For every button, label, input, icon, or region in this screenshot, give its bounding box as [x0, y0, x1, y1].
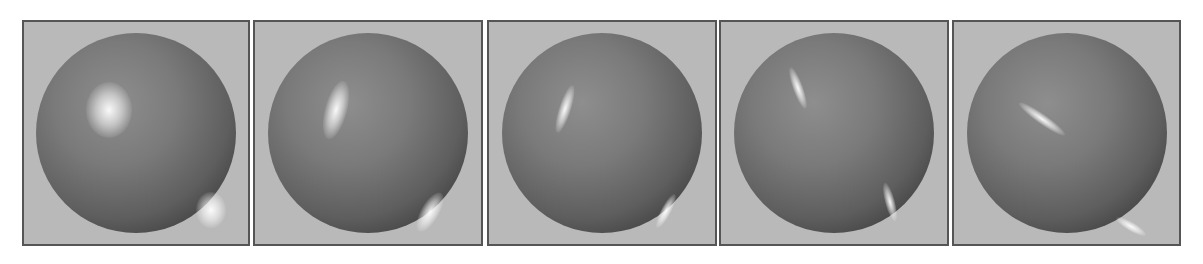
highlight-5b	[1114, 214, 1148, 239]
panel-2	[253, 20, 483, 246]
panel-3	[487, 20, 717, 246]
sphere-4	[734, 33, 934, 233]
panel-1	[22, 20, 250, 246]
panel-5	[952, 20, 1181, 246]
highlight-1a	[86, 82, 132, 138]
panel-4	[719, 20, 949, 246]
highlight-1b	[196, 192, 226, 228]
sphere-5	[967, 33, 1167, 233]
